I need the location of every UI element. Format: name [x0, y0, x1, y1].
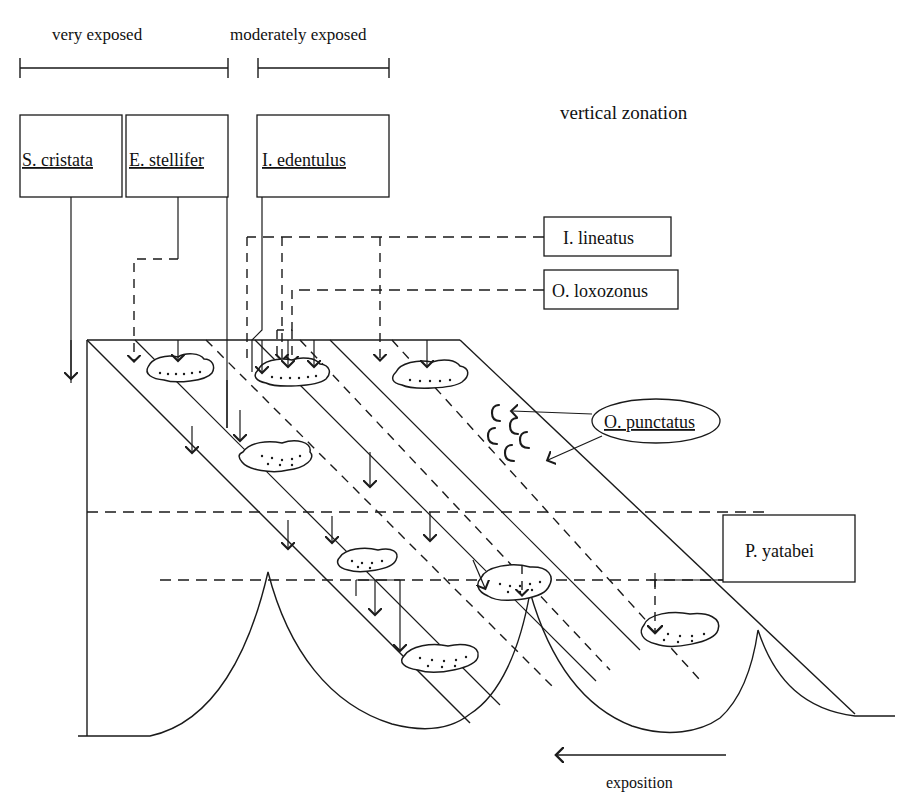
patch-2	[255, 358, 329, 386]
species-label-i-lineatus: I. lineatus	[563, 228, 634, 248]
zonation-diagram: very exposed moderately exposed vertical…	[0, 0, 907, 804]
band-dashline-2	[300, 340, 610, 670]
species-label-o-punctatus: O. punctatus	[604, 412, 695, 432]
rock-profile-right	[720, 630, 895, 718]
species-label-o-loxozonus: O. loxozonus	[552, 281, 648, 301]
species-label-i-edentulus: I. edentulus	[262, 150, 346, 170]
patch-4	[239, 441, 312, 472]
figure-title: vertical zonation	[560, 102, 688, 123]
exposure-bracket-very	[20, 58, 228, 78]
patch-1	[147, 354, 214, 382]
exposure-header-very: very exposed	[52, 25, 143, 44]
leader-o-punctatus-lower	[548, 436, 602, 460]
patch-7	[402, 644, 478, 672]
figure-canvas: very exposed moderately exposed vertical…	[0, 0, 907, 804]
patch-3	[393, 360, 468, 388]
connector-o-loxozonus-elbow	[277, 290, 292, 330]
band-dashline-1	[206, 340, 555, 689]
leader-o-punctatus-upper	[512, 411, 592, 414]
patch-6	[478, 565, 551, 600]
exposure-bracket-moderate	[258, 58, 389, 78]
patch-8	[641, 612, 718, 646]
exposition-label: exposition	[606, 774, 673, 792]
band-line-3	[330, 340, 640, 650]
species-label-e-stellifer: E. stellifer	[129, 150, 204, 170]
species-label-p-yatabei: P. yatabei	[745, 541, 814, 561]
species-label-s-cristata: S. cristata	[22, 150, 93, 170]
exposure-header-moderate: moderately exposed	[230, 25, 367, 44]
patch-5	[338, 548, 397, 571]
